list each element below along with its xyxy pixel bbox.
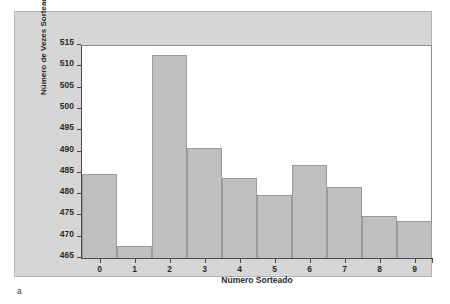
y-tick-label: 465 bbox=[60, 251, 74, 260]
y-tick-label: 490 bbox=[60, 145, 74, 154]
y-tick-mark bbox=[77, 193, 81, 194]
y-tick-label: 510 bbox=[60, 59, 74, 68]
x-tick-label: 3 bbox=[195, 265, 215, 274]
bar bbox=[257, 195, 292, 259]
figure: Número de Vezes Sorteado 465470475480485… bbox=[0, 0, 450, 304]
x-tick-mark bbox=[170, 259, 171, 263]
bar bbox=[362, 216, 397, 259]
x-tick-label: 0 bbox=[90, 265, 110, 274]
y-tick-mark bbox=[77, 44, 81, 45]
x-tick-mark bbox=[205, 259, 206, 263]
y-tick-label: 500 bbox=[60, 102, 74, 111]
x-tick-label: 6 bbox=[300, 265, 320, 274]
bar bbox=[397, 221, 432, 259]
x-tick-mark bbox=[432, 259, 433, 263]
y-tick-mark bbox=[77, 257, 81, 258]
x-tick-mark bbox=[135, 259, 136, 263]
x-tick-mark bbox=[275, 259, 276, 263]
bar bbox=[152, 55, 187, 259]
y-tick-mark bbox=[77, 236, 81, 237]
x-tick-mark bbox=[310, 259, 311, 263]
x-tick-mark bbox=[380, 259, 381, 263]
plot-area bbox=[82, 45, 432, 258]
x-tick-label: 7 bbox=[335, 265, 355, 274]
bar bbox=[82, 174, 117, 259]
figure-caption: a bbox=[17, 287, 22, 296]
y-tick-label: 495 bbox=[60, 123, 74, 132]
bar bbox=[222, 178, 257, 259]
y-axis-title: Número de Vezes Sorteado bbox=[40, 81, 48, 95]
x-tick-label: 4 bbox=[230, 265, 250, 274]
y-axis-line bbox=[81, 45, 82, 259]
y-tick-mark bbox=[77, 214, 81, 215]
x-tick-label: 9 bbox=[405, 265, 425, 274]
y-tick-mark bbox=[77, 172, 81, 173]
y-tick-mark bbox=[77, 87, 81, 88]
bar bbox=[187, 148, 222, 259]
x-tick-mark bbox=[415, 259, 416, 263]
y-tick-label: 470 bbox=[60, 230, 74, 239]
x-tick-label: 5 bbox=[265, 265, 285, 274]
bar bbox=[327, 187, 362, 259]
x-tick-label: 2 bbox=[160, 265, 180, 274]
y-tick-mark bbox=[77, 129, 81, 130]
bar bbox=[292, 165, 327, 259]
x-tick-label: 1 bbox=[125, 265, 145, 274]
x-tick-label: 8 bbox=[370, 265, 390, 274]
x-axis-title: Número Sorteado bbox=[82, 276, 432, 285]
y-tick-mark bbox=[77, 151, 81, 152]
y-tick-mark bbox=[77, 108, 81, 109]
y-tick-label: 480 bbox=[60, 187, 74, 196]
chart-panel: Número de Vezes Sorteado 465470475480485… bbox=[14, 11, 432, 277]
x-tick-mark bbox=[240, 259, 241, 263]
y-tick-label: 505 bbox=[60, 81, 74, 90]
x-tick-mark bbox=[100, 259, 101, 263]
y-tick-label: 485 bbox=[60, 166, 74, 175]
y-tick-label: 515 bbox=[60, 38, 74, 47]
y-tick-label: 475 bbox=[60, 208, 74, 217]
x-tick-mark bbox=[345, 259, 346, 263]
y-tick-mark bbox=[77, 65, 81, 66]
